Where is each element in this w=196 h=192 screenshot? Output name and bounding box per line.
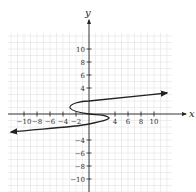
x-tick-label: 10	[150, 118, 159, 126]
x-tick-label: 4	[113, 118, 118, 126]
graph: −10−8−6−4−24681010864−4−6−8−10 x y	[0, 0, 196, 192]
x-tick-label: −6	[45, 118, 56, 126]
y-tick-label: −6	[75, 150, 86, 158]
y-tick-label: −10	[70, 176, 85, 184]
x-tick-label: −10	[17, 118, 32, 126]
grid	[8, 33, 172, 192]
y-tick-label: 8	[81, 59, 85, 67]
y-axis-label: y	[84, 7, 91, 18]
x-tick-label: 6	[126, 118, 131, 126]
x-tick-label: −4	[58, 118, 69, 126]
y-tick-label: −8	[75, 163, 85, 171]
x-tick-label: −2	[71, 118, 81, 126]
y-tick-label: 4	[81, 85, 86, 93]
y-tick-label: 6	[81, 72, 86, 80]
y-tick-label: 10	[76, 46, 85, 54]
x-tick-label: −8	[32, 118, 42, 126]
x-axis-label: x	[189, 108, 195, 119]
x-tick-label: 8	[139, 118, 143, 126]
axis-ticks: −10−8−6−4−24681010864−4−6−8−10	[17, 46, 159, 184]
y-tick-label: −4	[75, 137, 86, 145]
